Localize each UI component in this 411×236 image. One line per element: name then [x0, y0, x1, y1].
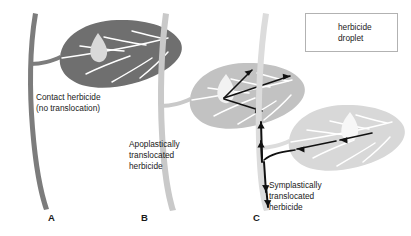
panel-caption-c: C [253, 212, 260, 223]
label-symplastic-herbicide: Symplastically translocated herbicide [269, 180, 322, 212]
petiole-b [160, 97, 191, 108]
label-contact-herbicide: Contact herbicide (no translocation) [36, 92, 101, 114]
panel-caption-b: B [141, 212, 148, 223]
figure-canvas: herbicide droplet Contact herbicide (no … [0, 0, 411, 236]
petiole-a [30, 55, 61, 66]
label-apoplastic-herbicide: Apoplastically translocated herbicide [129, 139, 180, 171]
legend-label: herbicide droplet [338, 22, 372, 44]
panel-caption-a: A [48, 212, 55, 223]
